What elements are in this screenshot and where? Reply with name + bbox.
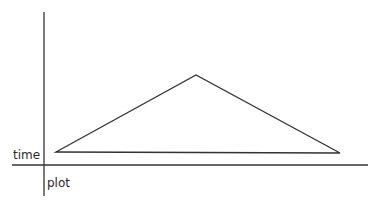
time-label: time xyxy=(13,149,40,161)
plot-label: plot xyxy=(47,177,70,189)
triangle-shape xyxy=(56,75,340,153)
